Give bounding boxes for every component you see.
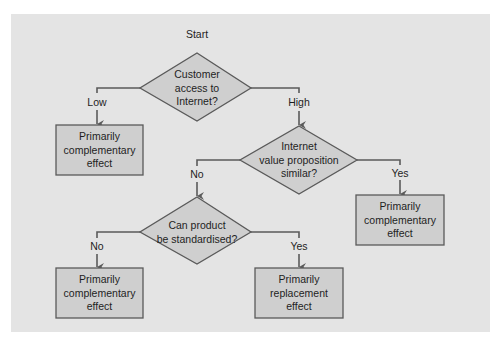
decision-3-text: Can product be standardised? xyxy=(157,219,238,246)
edge-label-d3-yes: Yes xyxy=(290,240,307,253)
decision-2-line-1: Internet xyxy=(259,140,338,154)
outcome-1-text: Primarily complementary effect xyxy=(64,130,136,171)
edge-high xyxy=(251,88,299,93)
outcome-2-line-3: effect xyxy=(364,227,436,241)
outcome-4-text: Primarily replacement effect xyxy=(270,273,328,314)
edge-label-d3-no: No xyxy=(90,240,103,253)
outcome-1-line-1: Primarily xyxy=(64,130,136,144)
edge-d2-yes xyxy=(357,160,400,165)
outcome-3-line-2: complementary xyxy=(64,286,136,300)
decision-2-line-3: similar? xyxy=(259,167,338,181)
outcome-2-text: Primarily complementary effect xyxy=(364,200,436,241)
decision-1-text: Customer access to Internet? xyxy=(174,68,220,109)
outcome-4-line-3: effect xyxy=(270,300,328,314)
edge-d3-yes xyxy=(251,232,299,238)
decision-3-line-2: be standardised? xyxy=(157,232,238,246)
edge-d2-no xyxy=(197,160,240,166)
decision-2-text: Internet value proposition similar? xyxy=(259,140,338,181)
edge-label-high: High xyxy=(288,96,310,109)
edge-label-d2-no: No xyxy=(190,168,203,181)
outcome-1-line-2: complementary xyxy=(64,143,136,157)
edge-label-d2-yes: Yes xyxy=(391,167,408,180)
start-label: Start xyxy=(186,28,208,41)
outcome-4-line-1: Primarily xyxy=(270,273,328,287)
outcome-3-line-1: Primarily xyxy=(64,273,136,287)
outcome-2-line-2: complementary xyxy=(364,213,436,227)
outcome-3-text: Primarily complementary effect xyxy=(64,273,136,314)
decision-1-line-1: Customer xyxy=(174,68,220,82)
outcome-3-line-3: effect xyxy=(64,300,136,314)
decision-1-line-3: Internet? xyxy=(174,95,220,109)
edge-label-low: Low xyxy=(87,96,106,109)
outcome-1-line-3: effect xyxy=(64,157,136,171)
edge-d3-no xyxy=(97,232,140,238)
outcome-2-line-1: Primarily xyxy=(364,200,436,214)
decision-1-line-2: access to xyxy=(174,81,220,95)
decision-3-line-1: Can product xyxy=(157,219,238,233)
edge-low xyxy=(97,88,140,93)
decision-2-line-2: value proposition xyxy=(259,153,338,167)
outcome-4-line-2: replacement xyxy=(270,286,328,300)
